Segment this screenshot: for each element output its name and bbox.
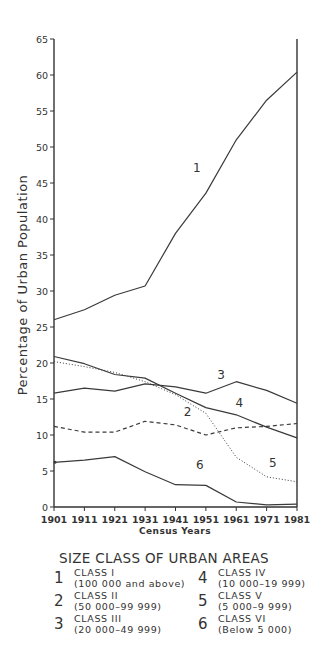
line-chart: 0510152025303540455055606519011911192119… [0, 0, 328, 545]
x-tick-label: 1971 [253, 514, 279, 525]
legend-class-range: (50 000–99 999) [74, 601, 162, 612]
axes: 0510152025303540455055606519011911192119… [36, 34, 310, 526]
y-axis-label: Percentage of Urban Population [15, 175, 30, 396]
legend-text: CLASS VI(Below 5 000) [218, 613, 292, 635]
line-label: 5 [269, 456, 277, 470]
y-tick-label: 35 [36, 250, 48, 261]
legend-number: 3 [54, 615, 74, 633]
legend-class-name: CLASS II [74, 590, 162, 601]
legend-title: SIZE CLASS OF URBAN AREAS [0, 550, 328, 566]
series-class-2 [54, 421, 297, 435]
legend-item-class-4: 4CLASS IV(10 000–19 999) [198, 567, 306, 589]
line-label: 4 [235, 396, 243, 410]
legend-number: 4 [198, 569, 218, 587]
series-class-6 [54, 457, 297, 505]
legend-text: CLASS II(50 000–99 999) [74, 590, 162, 612]
legend-item-class-3: 3CLASS III(20 000–49 999) [54, 613, 162, 635]
legend-text: CLASS I(100 000 and above) [74, 567, 185, 589]
legend-number: 6 [198, 615, 218, 633]
y-tick-label: 45 [36, 178, 48, 189]
series-lines [54, 72, 298, 505]
line-label: 2 [184, 405, 192, 419]
legend-item-class-5: 5CLASS V(5 000–9 999) [198, 590, 292, 612]
x-tick-label: 1901 [41, 514, 67, 525]
y-tick-label: 0 [42, 502, 48, 513]
x-tick-label: 1981 [284, 514, 310, 525]
x-axis-label: Census Years [0, 526, 328, 536]
x-tick-label: 1951 [193, 514, 219, 525]
x-tick-label: 1961 [223, 514, 249, 525]
legend-class-range: (5 000–9 999) [218, 601, 292, 612]
legend-class-range: (10 000–19 999) [218, 578, 306, 589]
legend-text: CLASS III(20 000–49 999) [74, 613, 162, 635]
y-tick-label: 25 [36, 322, 48, 333]
y-tick-label: 55 [36, 106, 48, 117]
line-label: 3 [217, 368, 225, 382]
legend-class-range: (100 000 and above) [74, 578, 185, 589]
legend-text: CLASS IV(10 000–19 999) [218, 567, 306, 589]
y-tick-label: 20 [36, 358, 48, 369]
y-tick-label: 15 [36, 394, 48, 405]
legend-number: 2 [54, 592, 74, 610]
y-tick-label: 10 [36, 430, 48, 441]
line-label: 6 [196, 458, 204, 472]
x-tick-label: 1931 [132, 514, 158, 525]
y-tick-label: 5 [42, 466, 48, 477]
x-tick-label: 1941 [162, 514, 188, 525]
legend-item-class-1: 1CLASS I(100 000 and above) [54, 567, 185, 589]
series-class-3 [54, 382, 297, 404]
legend-item-class-2: 2CLASS II(50 000–99 999) [54, 590, 162, 612]
legend-class-range: (20 000–49 999) [74, 624, 162, 635]
legend-class-name: CLASS III [74, 613, 162, 624]
series-class-5 [54, 362, 297, 482]
legend-number: 1 [54, 569, 74, 587]
start-dot [54, 461, 57, 464]
y-tick-label: 50 [36, 142, 48, 153]
legend-class-name: CLASS IV [218, 567, 306, 578]
legend-class-name: CLASS VI [218, 613, 292, 624]
legend-text: CLASS V(5 000–9 999) [218, 590, 292, 612]
line-label: 1 [193, 161, 201, 175]
legend-class-range: (Below 5 000) [218, 624, 292, 635]
legend-item-class-6: 6CLASS VI(Below 5 000) [198, 613, 292, 635]
legend-class-name: CLASS V [218, 590, 292, 601]
series-class-1 [54, 72, 297, 320]
legend-number: 5 [198, 592, 218, 610]
y-tick-label: 40 [36, 214, 48, 225]
y-tick-label: 60 [36, 70, 48, 81]
x-tick-label: 1921 [102, 514, 128, 525]
y-tick-label: 65 [36, 34, 48, 45]
series-class-4 [54, 357, 297, 438]
legend-class-name: CLASS I [74, 567, 185, 578]
y-tick-label: 30 [36, 286, 48, 297]
x-tick-label: 1911 [71, 514, 97, 525]
